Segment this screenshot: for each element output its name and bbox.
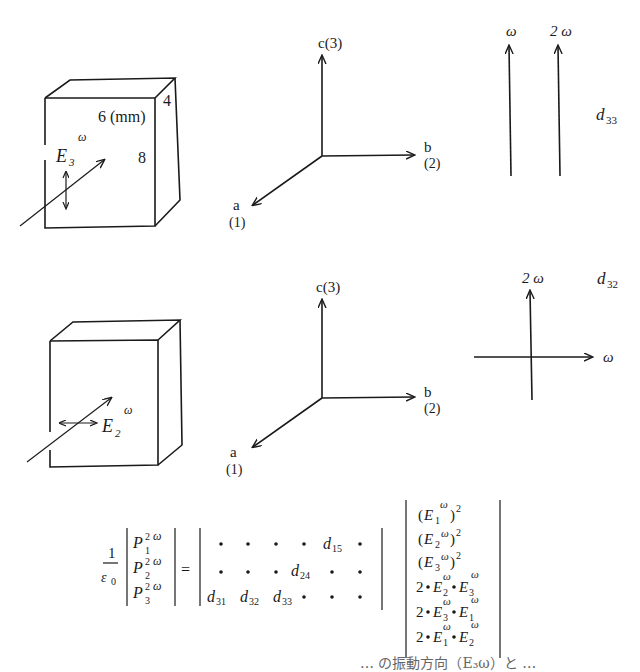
svg-text:32: 32 [249, 596, 259, 607]
axis-a-label: a [233, 197, 240, 213]
crystal-axes-bottom: c(3) b (2) a (1) [226, 279, 441, 478]
svg-text:): ) [450, 554, 455, 571]
svg-text:d: d [291, 562, 300, 579]
svg-text:E: E [423, 531, 433, 547]
svg-text:33: 33 [282, 596, 292, 607]
two-omega-arrow-icon [530, 291, 532, 400]
svg-text:2: 2 [115, 427, 121, 439]
lhs-p3: P [132, 584, 143, 601]
svg-text:ω: ω [471, 568, 479, 580]
svg-text:ω: ω [443, 570, 451, 582]
axis-a-index: (1) [229, 215, 246, 231]
svg-text:ω: ω [443, 595, 451, 607]
svg-text:ω: ω [78, 130, 86, 144]
svg-text:15: 15 [332, 543, 342, 554]
axis-a-label: a [230, 444, 237, 460]
axis-a-arrow-icon [253, 156, 322, 205]
beam-arrow-icon [27, 398, 111, 462]
svg-text:ω: ω [153, 579, 161, 593]
axis-b-index: (2) [424, 156, 441, 172]
svg-text:1: 1 [145, 545, 150, 556]
two-omega-label: 2 ω [550, 23, 572, 39]
svg-text:d: d [323, 535, 332, 552]
svg-text:ω: ω [124, 403, 132, 417]
svg-text:E: E [458, 629, 468, 645]
svg-text:ω: ω [441, 527, 449, 539]
svg-text:33: 33 [606, 114, 618, 126]
svg-text:24: 24 [300, 570, 310, 581]
svg-text:E: E [55, 146, 67, 166]
svg-text:2: 2 [456, 550, 461, 561]
prefactor-denominator: ε [101, 570, 107, 585]
omega-label: ω [603, 349, 614, 365]
svg-text:E: E [101, 416, 113, 436]
axis-a-arrow-icon [253, 398, 322, 447]
figure-canvas: 6 (mm) 4 8 E 3 ω c(3) b (2) a (1) ω 2 ω … [0, 0, 640, 672]
dim-height-label: 8 [138, 149, 146, 166]
crystal-axes-top: c(3) b (2) a (1) [229, 35, 441, 231]
beam-arrow-icon [20, 160, 104, 226]
svg-text:2: 2 [416, 579, 424, 595]
lhs-p2: P [132, 559, 143, 576]
svg-text:E: E [432, 629, 442, 645]
svg-text:d: d [597, 269, 606, 288]
svg-text:ω: ω [441, 550, 449, 562]
coefficient-d33: d 33 [596, 105, 618, 126]
omega-arrow-icon [509, 46, 511, 176]
axis-b-arrow-icon [322, 397, 414, 398]
svg-text:1: 1 [435, 515, 440, 526]
lhs-p1: P [132, 534, 143, 551]
svg-text:E: E [458, 579, 468, 595]
axis-b-index: (2) [424, 401, 441, 417]
prefactor-numerator: 1 [108, 545, 116, 561]
svg-text:E: E [458, 604, 468, 620]
svg-text:31: 31 [216, 596, 226, 607]
axis-c-label: c(3) [316, 279, 340, 296]
svg-text:): ) [450, 507, 455, 524]
footer-caption-partial: … の振動方向（E₃ω）と … [0, 652, 640, 672]
svg-text:d: d [240, 588, 249, 605]
dim-width-label: 6 (mm) [98, 108, 146, 126]
two-omega-arrow-icon [558, 46, 560, 176]
coefficient-d32: d 32 [597, 269, 618, 290]
svg-text:E: E [423, 507, 433, 523]
svg-text:2: 2 [145, 581, 150, 592]
svg-text:2: 2 [145, 531, 150, 542]
tensor-row-1: d 15 [219, 535, 362, 554]
svg-text:(: ( [418, 531, 423, 548]
axis-a-index: (1) [226, 462, 243, 478]
svg-text:d: d [596, 105, 605, 124]
svg-text:ω: ω [153, 554, 161, 568]
polarization-diagram-bottom: 2 ω ω d 32 [474, 269, 618, 400]
polarization-diagram-top: ω 2 ω d 33 [506, 23, 618, 176]
svg-text:E: E [423, 554, 433, 570]
tensor-row-2: d 24 [219, 562, 362, 581]
svg-text:): ) [450, 531, 455, 548]
field-label-e3: E 3 ω [55, 130, 86, 168]
axis-b-arrow-icon [322, 155, 414, 156]
axis-b-label: b [424, 384, 432, 400]
svg-text:d: d [273, 588, 282, 605]
crystal-bottom: E 2 ω [27, 320, 182, 467]
dim-depth-label: 4 [163, 92, 171, 109]
svg-text:ω: ω [440, 498, 448, 510]
omega-label: ω [506, 23, 517, 39]
svg-text:ω: ω [153, 529, 161, 543]
svg-text:E: E [432, 579, 442, 595]
svg-text:(: ( [418, 554, 423, 571]
crystal-top: 6 (mm) 4 8 E 3 ω [20, 78, 180, 228]
svg-text:E: E [432, 604, 442, 620]
two-omega-label: 2 ω [522, 270, 544, 286]
svg-text:2: 2 [145, 570, 150, 581]
axis-b-label: b [424, 139, 432, 155]
svg-text:2: 2 [469, 637, 474, 648]
svg-text:(: ( [418, 507, 423, 524]
tensor-equation: 1 ε 0 P 2 ω 1 P 2 ω 2 P 2 ω 3 = [101, 498, 500, 658]
axis-c-label: c(3) [318, 35, 342, 52]
svg-text:3: 3 [435, 562, 440, 573]
svg-text:ω: ω [443, 620, 451, 632]
svg-text:1: 1 [443, 637, 448, 648]
svg-text:ω: ω [471, 618, 479, 630]
rhs-vector: ( E 1 ω ) 2 ( E 2 ω ) 2 ( E 3 ω ) 2 2 E … [416, 498, 479, 648]
svg-text:32: 32 [607, 278, 618, 290]
